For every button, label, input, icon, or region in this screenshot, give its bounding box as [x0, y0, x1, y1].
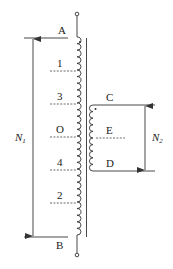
- label-d: D: [106, 157, 114, 169]
- tap-3-label: 3: [57, 90, 63, 102]
- polarity-dot-primary: [79, 41, 81, 43]
- tap-1-label: 1: [57, 57, 63, 69]
- primary-coil: [77, 37, 81, 235]
- transformer-diagram: A B N1 1 3 O 4 2 C E D N2: [0, 0, 173, 269]
- secondary-coil: [89, 105, 97, 171]
- tap-o-label: O: [56, 123, 64, 135]
- label-n1: N1: [14, 131, 26, 145]
- terminal-top: [75, 12, 79, 37]
- label-a: A: [58, 24, 66, 36]
- label-b: B: [56, 239, 63, 251]
- polarity-dot-secondary: [95, 108, 97, 110]
- label-c: C: [106, 91, 113, 103]
- label-n2: N2: [151, 131, 163, 145]
- tap-2-label: 2: [57, 189, 63, 201]
- label-e: E: [106, 124, 113, 136]
- terminal-bottom: [75, 235, 79, 257]
- tap-4-label: 4: [57, 156, 63, 168]
